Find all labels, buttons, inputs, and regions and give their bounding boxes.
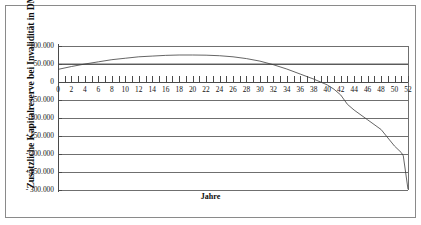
x-axis-tick-mark xyxy=(341,76,342,82)
x-axis-tick-mark xyxy=(260,76,261,82)
y-axis-tick-mark xyxy=(58,118,62,119)
x-axis-tick-mark xyxy=(401,76,402,82)
x-axis-tick-mark xyxy=(334,76,335,82)
y-axis-tick-label: - 150.000 xyxy=(6,131,54,140)
x-axis-tick-mark xyxy=(253,76,254,82)
x-axis-tick-mark xyxy=(395,76,396,82)
x-axis-tick-mark xyxy=(125,76,126,82)
x-axis-tick-mark xyxy=(314,76,315,82)
y-axis-tick-mark xyxy=(58,172,62,173)
x-axis-tick-mark xyxy=(226,76,227,82)
x-axis-tick-mark xyxy=(159,76,160,82)
x-axis-tick-mark xyxy=(132,76,133,82)
x-axis-tick-mark xyxy=(300,76,301,82)
x-axis-tick-mark xyxy=(179,76,180,82)
x-axis-tick-mark xyxy=(267,76,268,82)
x-axis-tick-mark xyxy=(273,76,274,82)
y-axis-tick-mark xyxy=(58,100,62,101)
gridline xyxy=(58,46,408,47)
x-axis-tick-mark xyxy=(361,76,362,82)
x-axis-tick-mark xyxy=(172,76,173,82)
x-axis-tick-mark xyxy=(152,76,153,82)
y-axis-tick-label: - 50.000 xyxy=(6,95,54,104)
x-axis-tick-mark xyxy=(321,76,322,82)
chart-figure: Zusätzliche Kapitalreserve bei Invalidit… xyxy=(0,0,421,225)
x-axis-tick-mark xyxy=(246,76,247,82)
gridline xyxy=(58,136,408,137)
y-axis-tick-label: 0 xyxy=(6,77,54,86)
x-axis-tick-mark xyxy=(233,76,234,82)
x-axis-tick-mark xyxy=(105,76,106,82)
x-axis-tick-mark xyxy=(307,76,308,82)
x-axis-tick-mark xyxy=(193,76,194,82)
x-axis-tick-mark xyxy=(354,76,355,82)
gridline xyxy=(58,118,408,119)
x-axis-tick-mark xyxy=(294,76,295,82)
x-axis-tick-mark xyxy=(388,76,389,82)
x-axis-tick-mark xyxy=(368,76,369,82)
y-axis-tick-label: - 200.000 xyxy=(6,149,54,158)
gridline xyxy=(58,64,408,65)
x-axis-tick-mark xyxy=(186,76,187,82)
y-axis-tick-mark xyxy=(58,154,62,155)
x-axis-tick-mark xyxy=(240,76,241,82)
x-axis-tick-mark xyxy=(220,76,221,82)
x-axis-tick-mark xyxy=(112,76,113,82)
plot-right-border xyxy=(408,46,409,190)
x-axis-tick-mark xyxy=(381,76,382,82)
x-axis-tick-mark xyxy=(85,76,86,82)
x-axis-title: Jahre xyxy=(0,192,421,201)
y-axis-tick-mark xyxy=(58,64,62,65)
gridline xyxy=(58,154,408,155)
y-axis-tick-mark xyxy=(58,82,62,83)
x-axis-tick-mark xyxy=(92,76,93,82)
x-axis-tick-mark xyxy=(71,76,72,82)
y-axis-tick-label: 100.000 xyxy=(6,41,54,50)
x-axis-tick-label: 52 xyxy=(398,85,418,94)
x-axis-tick-mark xyxy=(280,76,281,82)
y-axis-tick-mark xyxy=(58,46,62,47)
x-axis-tick-mark xyxy=(78,76,79,82)
gridline xyxy=(58,190,408,191)
x-axis-tick-mark xyxy=(287,76,288,82)
x-axis-tick-mark xyxy=(199,76,200,82)
x-axis-tick-mark xyxy=(347,76,348,82)
x-axis-line xyxy=(58,82,408,83)
x-axis-tick-mark xyxy=(206,76,207,82)
x-axis-tick-mark xyxy=(166,76,167,82)
x-axis-tick-mark xyxy=(146,76,147,82)
gridline xyxy=(58,172,408,173)
y-axis-tick-label: - 100.000 xyxy=(6,113,54,122)
x-axis-tick-mark xyxy=(119,76,120,82)
x-axis-tick-mark xyxy=(139,76,140,82)
y-axis-tick-mark xyxy=(58,136,62,137)
y-axis-tick-mark xyxy=(58,190,62,191)
plot-area xyxy=(58,46,408,190)
x-axis-tick-mark xyxy=(408,76,409,82)
x-axis-tick-mark xyxy=(65,76,66,82)
y-axis-tick-label: - 250.000 xyxy=(6,167,54,176)
x-axis-tick-mark xyxy=(213,76,214,82)
x-axis-tick-mark xyxy=(98,76,99,82)
y-axis-tick-label: 50.000 xyxy=(6,59,54,68)
x-axis-tick-mark xyxy=(327,76,328,82)
gridline xyxy=(58,100,408,101)
x-axis-tick-mark xyxy=(374,76,375,82)
